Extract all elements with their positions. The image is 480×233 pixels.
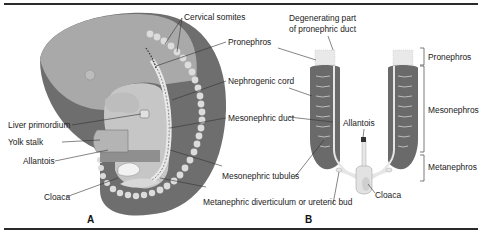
label-degenerating-line1: Degenerating part xyxy=(289,13,356,23)
label-allantois-b: Allantois xyxy=(343,118,375,128)
label-pronephros-a: Pronephros xyxy=(228,37,271,47)
panel-letter-b: B xyxy=(305,214,312,225)
label-nephrogenic-cord: Nephrogenic cord xyxy=(228,76,294,86)
bracket-label-pronephros: Pronephros xyxy=(428,52,471,62)
label-allantois-a: Allantois xyxy=(23,156,55,166)
label-cervical-somites: Cervical somites xyxy=(184,12,245,22)
label-metanephric-diverticulum: Metanephric diverticulum or ureteric bud xyxy=(203,197,352,207)
panel-letter-a: A xyxy=(87,214,94,225)
bracket-label-mesonephros: Mesonephros xyxy=(428,105,479,115)
label-cloaca-a: Cloaca xyxy=(44,192,70,202)
bracket-label-metanephros: Metanephros xyxy=(428,162,477,172)
label-yolk-stalk: Yolk stalk xyxy=(8,137,43,147)
label-mesonephric-tubules: Mesonephric tubules xyxy=(222,171,299,181)
label-liver-primordium: Liver primordium xyxy=(8,120,70,130)
label-cloaca-b: Cloaca xyxy=(375,190,401,200)
embryo-illustration xyxy=(40,13,226,216)
label-mesonephric-duct: Mesonephric duct xyxy=(228,113,294,123)
region-brackets xyxy=(420,48,424,181)
label-degenerating-line2: of pronephric duct xyxy=(289,24,356,34)
bottom-rule xyxy=(4,228,478,230)
